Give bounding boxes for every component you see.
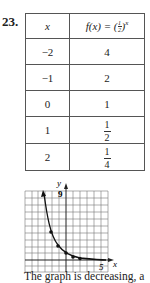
table-row: 0 1 bbox=[26, 91, 145, 117]
fraction: 14 bbox=[104, 147, 111, 170]
header-fx: f(x) = (12)x bbox=[70, 14, 145, 39]
problem-number: 23. bbox=[2, 14, 18, 30]
cell-fx: 14 bbox=[70, 144, 145, 171]
y-axis-arrow-icon bbox=[64, 183, 68, 189]
table-header-row: x f(x) = (12)x bbox=[26, 14, 145, 39]
cell-x: −2 bbox=[26, 39, 70, 65]
y-axis-label: y bbox=[56, 178, 61, 188]
y-tick-label: 9 bbox=[58, 189, 63, 199]
header-fx-exp: x bbox=[125, 19, 128, 27]
cell-fx: 4 bbox=[70, 39, 145, 65]
header-fx-prefix: f(x) = ( bbox=[86, 19, 118, 31]
header-x: x bbox=[26, 14, 70, 39]
curve bbox=[44, 194, 106, 260]
table-row: −1 2 bbox=[26, 65, 145, 91]
exponential-graph: y 9 5 x bbox=[0, 178, 150, 273]
table-row: −2 4 bbox=[26, 39, 145, 65]
cell-fx: 1 bbox=[70, 91, 145, 117]
cell-x: 2 bbox=[26, 144, 70, 171]
cell-fx: 2 bbox=[70, 65, 145, 91]
cell-x: −1 bbox=[26, 65, 70, 91]
cell-x: 0 bbox=[26, 91, 70, 117]
table-row: 1 12 bbox=[26, 117, 145, 144]
caption-text: The graph is decreasing, a bbox=[24, 270, 144, 282]
cell-x: 1 bbox=[26, 117, 70, 144]
values-table: x f(x) = (12)x −2 4 −1 2 0 1 1 12 2 14 bbox=[25, 13, 145, 171]
fraction: 12 bbox=[104, 120, 111, 143]
table-row: 2 14 bbox=[26, 144, 145, 171]
cell-fx: 12 bbox=[70, 117, 145, 144]
x-axis-label: x bbox=[112, 259, 117, 269]
